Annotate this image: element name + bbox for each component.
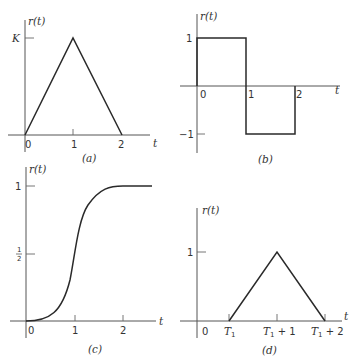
x-tick-label-t1-plus-2: T1 + 2 <box>311 325 344 339</box>
x-axis-label: t <box>153 137 158 149</box>
y-tick-label-1: 1 <box>186 33 192 44</box>
x-tick-label-0: 0 <box>28 325 34 336</box>
x-tick-label-0: 0 <box>202 326 208 337</box>
figure-canvas: r(t) K 0 1 2 t (a) r(t) 1 −1 0 1 2 t (b)… <box>0 0 357 363</box>
panel-b: r(t) 1 −1 0 1 2 t (b) <box>179 10 340 165</box>
y-tick-label-1: 1 <box>15 181 21 192</box>
y-tick-label-half-den: 2 <box>17 255 21 263</box>
y-axis-label: r(t) <box>28 15 45 27</box>
delayed-triangle-curve <box>229 252 325 321</box>
y-axis-label: r(t) <box>29 163 46 175</box>
x-axis-label: t <box>344 310 349 322</box>
x-tick-label-0: 0 <box>25 139 31 150</box>
caption-c: (c) <box>88 343 102 355</box>
x-tick-label-2: 2 <box>118 139 124 150</box>
y-tick-label-k: K <box>11 32 21 44</box>
y-axis-label: r(t) <box>202 204 219 216</box>
y-tick-label-half-num: 1 <box>17 246 21 254</box>
x-tick-label-1: 1 <box>71 139 77 150</box>
panel-c: r(t) 1 1 2 0 1 2 t (c) <box>10 163 164 355</box>
x-tick-label-0: 0 <box>200 89 206 100</box>
panel-d: r(t) 1 0 T1 T1 + 1 T1 + 2 t (d) <box>180 204 349 356</box>
s-curve <box>26 186 152 321</box>
caption-d: (d) <box>262 344 277 356</box>
x-tick-label-2: 2 <box>120 325 126 336</box>
x-axis-label: t <box>159 315 164 327</box>
x-tick-label-2: 2 <box>296 89 302 100</box>
panel-a: r(t) K 0 1 2 t (a) <box>8 15 158 164</box>
x-tick-label-1: 1 <box>72 325 78 336</box>
x-tick-label-1: 1 <box>248 89 254 100</box>
x-tick-label-t1-plus-1: T1 + 1 <box>263 325 296 339</box>
caption-a: (a) <box>82 152 96 164</box>
y-tick-label-neg1: −1 <box>179 129 194 140</box>
y-axis-label: r(t) <box>200 10 217 22</box>
caption-b: (b) <box>258 153 273 165</box>
y-tick-label-1: 1 <box>187 247 193 258</box>
triangle-pulse-curve <box>25 38 122 135</box>
x-tick-label-t1: T1 <box>224 325 235 339</box>
